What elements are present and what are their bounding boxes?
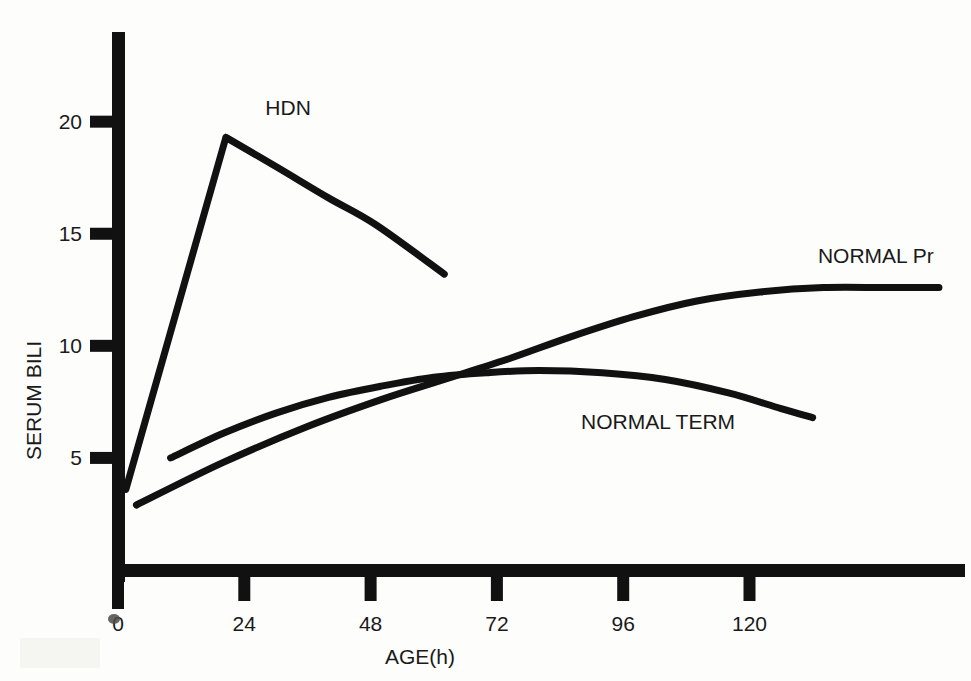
y-tick-10 [90,340,114,352]
x-tick-label-96: 96 [612,612,635,636]
y-tick-label-5: 5 [40,446,82,470]
x-tick-48 [365,575,377,601]
y-tick-label-10: 10 [40,334,82,358]
series-label-normal-term: NORMAL TERM [581,410,735,434]
y-tick-15 [90,228,114,240]
scan-artifact-dot [108,614,120,624]
x-tick-label-120: 120 [732,612,767,636]
series-label-normal-pr: NORMAL Pr [818,244,934,268]
x-tick-label-72: 72 [485,612,508,636]
plot-canvas [0,0,971,681]
scan-artifact-bottom-left [20,638,100,668]
x-tick-0 [112,575,124,609]
y-tick-label-20: 20 [40,110,82,134]
series-curve-normal-pr [136,287,939,505]
axes-layer [90,32,965,609]
series-label-hdn: HDN [265,96,311,120]
x-tick-24 [238,575,250,601]
chart-figure: 5101520 024487296120 AGE(h) SERUM BILI H… [0,0,971,681]
x-tick-120 [744,575,756,601]
y-axis-spine [112,32,125,582]
y-tick-5 [90,452,114,464]
x-tick-72 [491,575,503,601]
x-tick-96 [617,575,629,601]
curves-layer [126,137,939,505]
x-tick-label-24: 24 [233,612,256,636]
y-tick-20 [90,116,114,128]
y-tick-label-15: 15 [40,222,82,246]
x-tick-label-48: 48 [359,612,382,636]
x-axis-title: AGE(h) [385,645,455,669]
y-axis-title: SERUM BILI [22,341,46,460]
